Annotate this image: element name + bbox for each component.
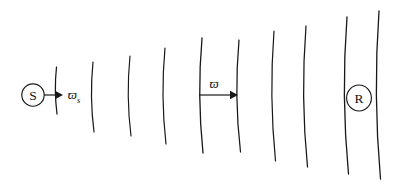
receiver-node-label: R [354,91,363,106]
source-node-label: S [29,88,37,103]
source-node: S [22,84,44,106]
receiver-node: R [347,85,372,111]
wave-propagation-figure: ϖsϖ SR [0,0,401,190]
field-wavelength-label: ϖ [209,76,219,91]
figure-canvas: ϖsϖ SR [0,0,401,190]
